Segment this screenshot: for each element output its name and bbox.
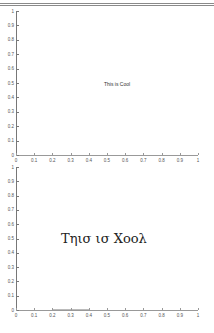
top-x-tick <box>71 153 72 155</box>
bottom-y-tick <box>17 281 19 282</box>
bottom-x-tick-label: 0.9 <box>173 313 187 318</box>
top-x-tick-label: 0.6 <box>118 158 132 163</box>
top-x-tick-label: 0.9 <box>173 158 187 163</box>
top-x-axis <box>16 155 198 156</box>
bottom-y-tick-label: 0.4 <box>0 250 14 255</box>
bottom-y-tick-label: 1 <box>0 165 14 170</box>
bottom-y-tick-label: 0.2 <box>0 279 14 284</box>
top-y-tick-label: 0.7 <box>0 52 14 57</box>
top-y-tick <box>17 83 19 84</box>
top-y-tick-label: 0 <box>0 153 14 158</box>
bottom-x-tick <box>16 308 17 310</box>
top-x-tick <box>34 153 35 155</box>
bottom-x-tick-label: 0.2 <box>45 313 59 318</box>
bottom-x-tick-label: 0.7 <box>136 313 150 318</box>
bottom-y-tick <box>17 310 19 311</box>
bottom-x-tick <box>52 308 53 310</box>
bottom-y-tick <box>17 181 19 182</box>
bottom-x-tick-label: 0.4 <box>82 313 96 318</box>
bottom-x-tick-label: 0.8 <box>155 313 169 318</box>
bottom-x-tick <box>162 308 163 310</box>
bottom-x-tick <box>71 308 72 310</box>
top-x-tick-label: 0.5 <box>100 158 114 163</box>
bottom-x-tick-label: 0 <box>9 313 23 318</box>
bottom-y-tick <box>17 196 19 197</box>
top-x-tick-label: 0.7 <box>136 158 150 163</box>
bottom-y-tick-label: 0.1 <box>0 293 14 298</box>
bottom-y-tick-label: 0.9 <box>0 179 14 184</box>
bottom-y-tick <box>17 253 19 254</box>
bottom-y-tick <box>17 267 19 268</box>
bottom-x-tick <box>34 308 35 310</box>
bottom-x-axis <box>16 310 198 311</box>
bottom-y-tick-label: 0.3 <box>0 265 14 270</box>
top-y-tick <box>17 54 19 55</box>
bottom-y-tick <box>17 167 19 168</box>
top-y-tick <box>17 25 19 26</box>
bottom-y-tick <box>17 296 19 297</box>
top-y-tick <box>17 40 19 41</box>
top-x-tick <box>107 153 108 155</box>
bottom-x-tick <box>89 308 90 310</box>
top-x-tick <box>125 153 126 155</box>
top-y-tick-label: 0.5 <box>0 81 14 86</box>
top-y-tick <box>17 126 19 127</box>
top-x-tick <box>143 153 144 155</box>
bottom-y-tick <box>17 210 19 211</box>
top-y-tick-label: 0.1 <box>0 138 14 143</box>
top-y-tick-label: 0.2 <box>0 124 14 129</box>
top-x-tick-label: 1 <box>191 158 205 163</box>
bottom-y-tick <box>17 224 19 225</box>
top-y-tick <box>17 69 19 70</box>
top-x-tick-label: 0 <box>9 158 23 163</box>
top-y-tick-label: 0.3 <box>0 109 14 114</box>
bottom-x-tick <box>107 308 108 310</box>
top-x-tick-label: 0.4 <box>82 158 96 163</box>
bottom-y-tick-label: 0 <box>0 308 14 313</box>
bottom-x-tick <box>125 308 126 310</box>
top-y-tick <box>17 112 19 113</box>
top-x-tick-label: 0.3 <box>64 158 78 163</box>
top-y-tick <box>17 155 19 156</box>
bottom-x-tick <box>198 308 199 310</box>
bottom-y-tick-label: 0.7 <box>0 207 14 212</box>
top-x-tick <box>16 153 17 155</box>
top-x-tick <box>52 153 53 155</box>
bottom-x-tick-label: 0.6 <box>118 313 132 318</box>
top-y-tick-label: 0.4 <box>0 95 14 100</box>
bottom-x-tick-label: 0.1 <box>27 313 41 318</box>
top-x-tick <box>89 153 90 155</box>
top-rule-2 <box>0 5 214 6</box>
top-rule-1 <box>0 3 214 4</box>
bottom-x-tick-label: 0.3 <box>64 313 78 318</box>
top-y-tick-label: 1 <box>0 9 14 14</box>
top-y-tick <box>17 97 19 98</box>
bottom-x-tick-label: 0.5 <box>100 313 114 318</box>
bottom-x-tick <box>143 308 144 310</box>
bottom-y-tick-label: 0.6 <box>0 222 14 227</box>
bottom-x-tick-label: 1 <box>191 313 205 318</box>
bottom-y-tick-label: 0.5 <box>0 236 14 241</box>
top-y-tick <box>17 11 19 12</box>
top-x-tick-label: 0.8 <box>155 158 169 163</box>
top-annotation: This is Cool <box>104 81 130 87</box>
top-y-tick-label: 0.9 <box>0 23 14 28</box>
top-y-tick <box>17 141 19 142</box>
top-x-tick <box>198 153 199 155</box>
top-x-tick-label: 0.1 <box>27 158 41 163</box>
top-x-tick <box>180 153 181 155</box>
top-y-tick-label: 0.8 <box>0 37 14 42</box>
top-x-tick <box>162 153 163 155</box>
bottom-annotation: Τηισ ισ Χοολ <box>61 231 147 246</box>
top-y-tick-label: 0.6 <box>0 66 14 71</box>
bottom-x-tick <box>180 308 181 310</box>
bottom-y-tick-label: 0.8 <box>0 193 14 198</box>
bottom-y-tick <box>17 239 19 240</box>
top-x-tick-label: 0.2 <box>45 158 59 163</box>
